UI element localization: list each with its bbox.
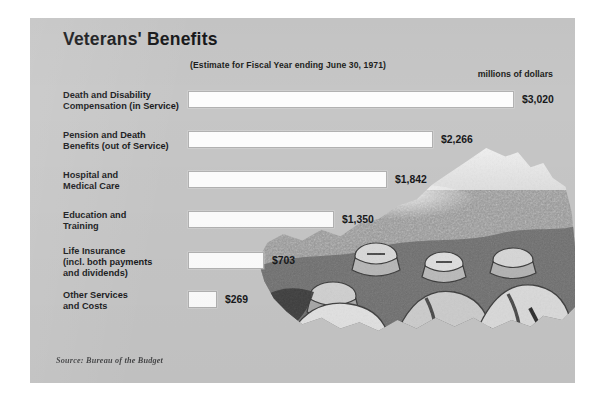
bar-category-label: Hospital and Medical Care	[63, 170, 120, 192]
bar-category-label: Life Insurance (incl. both payments and …	[63, 246, 152, 278]
bar-death-and-disability	[188, 91, 514, 108]
bar-value-label: $3,020	[522, 94, 554, 105]
bar-value-label: $1,842	[395, 174, 427, 185]
infographic-poster: Veterans' Benefits (Estimate for Fiscal …	[30, 18, 575, 383]
bar-value-label: $703	[272, 255, 295, 266]
bar-value-label: $1,350	[342, 214, 374, 225]
bar-life-insurance	[188, 252, 264, 269]
bar-category-label: Death and Disability Compensation (in Se…	[63, 90, 179, 112]
bar-value-label: $269	[225, 294, 248, 305]
bar-other-services	[188, 291, 217, 308]
bar-category-label: Education and Training	[63, 210, 126, 232]
source-note: Source: Bureau of the Budget	[56, 356, 163, 365]
bar-education-and-training	[188, 211, 334, 228]
bar-chart: Death and Disability Compensation (in Se…	[30, 18, 575, 383]
bar-value-label: $2,266	[441, 134, 473, 145]
bar-pension-and-death	[188, 131, 433, 148]
bar-category-label: Pension and Death Benefits (out of Servi…	[63, 130, 169, 152]
bar-hospital-and-medical	[188, 171, 387, 188]
bar-category-label: Other Services and Costs	[63, 290, 128, 312]
